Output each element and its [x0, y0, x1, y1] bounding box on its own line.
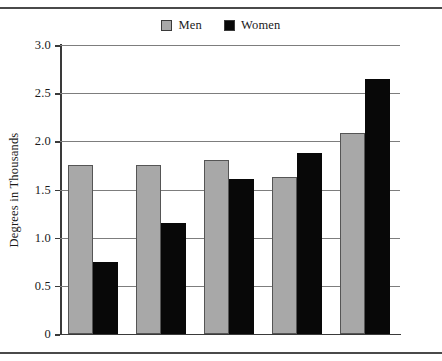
y-axis-tick-label: 3.0: [35, 38, 51, 53]
y-axis-tick: [55, 45, 60, 47]
y-axis-tick: [55, 141, 60, 143]
y-axis-tick: [55, 93, 60, 95]
y-axis-tick: [55, 334, 60, 336]
bar-chart: Degrees in Thousands 00.51.01.52.02.53.0…: [0, 0, 442, 361]
y-axis-tick: [55, 190, 60, 192]
y-axis-tick-label: 2.5: [35, 86, 51, 101]
bar-women-1986-87: [229, 179, 254, 334]
bar-men-1986-87: [204, 160, 229, 334]
y-axis-tick-label: 1.5: [35, 182, 51, 197]
plot-area: 00.51.01.52.02.53.01976–771980–811986–87…: [60, 45, 400, 334]
bar-women-1980-81: [161, 223, 186, 334]
bar-women-1994-95: [365, 79, 390, 334]
y-axis-tick-label: 0.5: [35, 278, 51, 293]
y-axis-title: Degrees in Thousands: [7, 133, 22, 248]
bar-women-1976-77: [93, 262, 118, 334]
y-axis-tick-label: 2.0: [35, 134, 51, 149]
bar-women-1990-91: [297, 153, 322, 334]
bar-men-1990-91: [272, 177, 297, 334]
y-axis-tick: [55, 286, 60, 288]
y-axis-tick-label: 0: [45, 327, 51, 342]
y-axis-tick-label: 1.0: [35, 230, 51, 245]
bar-men-1976-77: [68, 165, 93, 334]
bar-men-1980-81: [136, 165, 161, 334]
gridline: [60, 93, 400, 94]
bar-men-1994-95: [340, 133, 365, 334]
y-axis-tick: [55, 238, 60, 240]
gridline: [60, 45, 400, 46]
